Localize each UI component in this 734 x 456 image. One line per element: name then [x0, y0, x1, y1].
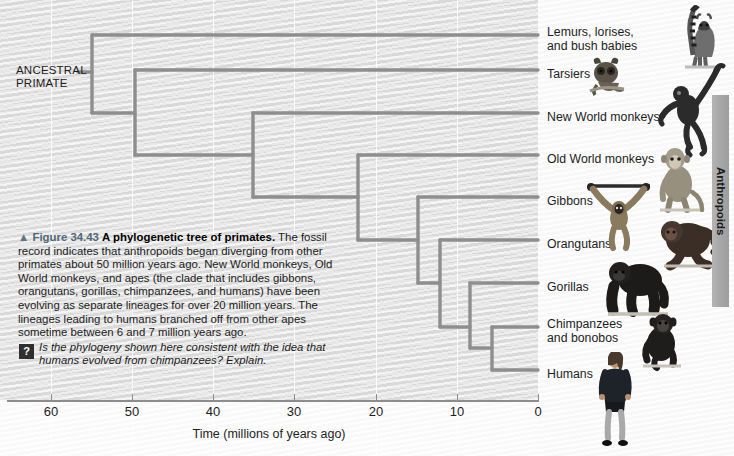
- axis-tick: [294, 394, 295, 401]
- question-block: ? Is the phylogeny shown here consistent…: [18, 341, 340, 368]
- axis-tick: [213, 394, 214, 401]
- axis-tick-label-20: 20: [359, 404, 393, 419]
- axis-tick-label-40: 40: [196, 404, 230, 419]
- tarsier-icon: [584, 55, 632, 99]
- phylogenetic-tree-figure: ANCESTRAL PRIMATE Lemurs, lorises, and b…: [0, 0, 734, 456]
- question-text: Is the phylogeny shown here consistent w…: [39, 341, 340, 368]
- anthropoids-label: Anthropoids: [712, 95, 729, 307]
- caption-triangle-icon: ▲: [18, 231, 29, 243]
- axis-title: Time (millions of years ago): [0, 427, 538, 441]
- caption-body: The fossil record indicates that anthrop…: [18, 231, 332, 338]
- axis-tick: [376, 394, 377, 401]
- tip-label-lemurs: Lemurs, lorises, and bush babies: [547, 25, 637, 53]
- axis-tick: [51, 394, 52, 401]
- tip-label-new-world-monkeys: New World monkeys: [547, 110, 660, 124]
- time-axis-line: [7, 400, 539, 402]
- figure-number: Figure 34.43: [32, 231, 98, 243]
- axis-tick: [538, 394, 539, 401]
- axis-tick-label-30: 30: [277, 404, 311, 419]
- ancestral-primate-label: ANCESTRAL PRIMATE: [16, 64, 87, 90]
- axis-tick: [132, 394, 133, 401]
- axis-tick-label-50: 50: [115, 404, 149, 419]
- chimpanzee-icon: [633, 310, 689, 372]
- axis-tick-label-60: 60: [34, 404, 68, 419]
- human-icon: [592, 352, 638, 452]
- axis-tick-label-0: 0: [521, 404, 555, 419]
- gibbon-icon: [582, 178, 656, 252]
- axis-tick: [457, 394, 458, 401]
- question-mark-icon: ?: [19, 344, 34, 359]
- tip-label-old-world-monkeys: Old World monkeys: [547, 152, 654, 166]
- figure-caption: ▲ Figure 34.43 A phylogenetic tree of pr…: [18, 231, 340, 340]
- figure-title: A phylogenetic tree of primates.: [102, 231, 275, 243]
- tip-label-gorillas: Gorillas: [547, 280, 589, 294]
- tip-label-humans: Humans: [547, 367, 593, 381]
- axis-tick-label-10: 10: [440, 404, 474, 419]
- macaque-icon: [650, 142, 708, 214]
